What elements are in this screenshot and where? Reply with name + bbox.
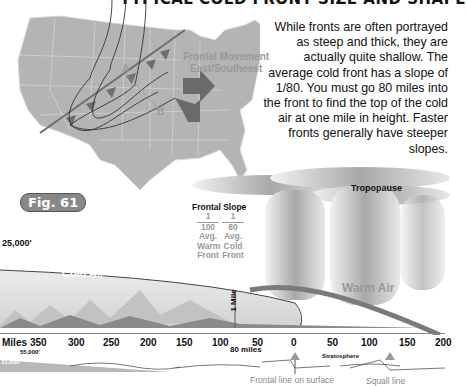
miles-axis	[0, 333, 445, 334]
tick: 150	[176, 337, 193, 348]
cold-desc-3: Front	[222, 251, 244, 261]
stratosphere-label: Stratosphere	[322, 353, 359, 359]
squall-line-label: Squall line	[366, 376, 405, 386]
altitude-31000-label: 31,000'	[1, 359, 21, 365]
tick: 150	[399, 337, 416, 348]
tick: 350	[30, 337, 47, 348]
cold-front-slope: 1 80 Avg. Cold Front	[222, 212, 244, 261]
tick: 100	[361, 337, 378, 348]
warm-desc-3: Front	[197, 251, 219, 261]
tropopause-label: Tropopause	[351, 183, 402, 193]
frontal-line-label: Frontal line on surface	[250, 375, 334, 385]
frontal-direction-label: East/Southeast	[190, 63, 262, 74]
tick: 200	[140, 337, 157, 348]
tick: 0	[291, 337, 297, 348]
tick: 50	[327, 337, 338, 348]
warm-slope-num: 1	[197, 212, 219, 222]
lower-strip	[0, 352, 452, 374]
one-mile-label: 1 Mile	[229, 289, 238, 311]
frontal-movement-label: Frontal Movement	[183, 51, 269, 62]
warm-front-slope: 1 100 Avg. Warm Front	[197, 212, 219, 261]
cold-air-label: Cold Air	[62, 267, 104, 279]
tick: 200	[435, 337, 452, 348]
description-paragraph: While fronts are often portrayed as stee…	[262, 20, 448, 157]
altitude-25000-label: 25,000'	[2, 238, 32, 248]
point-a-label: A	[122, 63, 129, 74]
warm-air-label: Warm Air	[342, 281, 394, 295]
axis-label: Miles	[2, 337, 27, 348]
tick: 100	[212, 337, 229, 348]
tick: 300	[68, 337, 85, 348]
tick: 250	[103, 337, 120, 348]
cold-slope-num: 1	[222, 212, 244, 222]
altitude-55000-label: 55,000'	[20, 349, 40, 355]
frontal-slope-title: Frontal Slope	[192, 202, 246, 212]
